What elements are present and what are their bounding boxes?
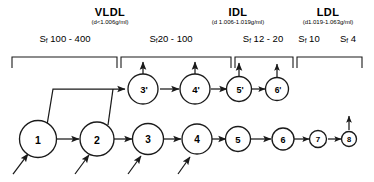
node-3[interactable]: 3 (133, 124, 164, 155)
node-4[interactable]: 4 (182, 124, 212, 154)
node-1-label: 1 (35, 134, 41, 146)
node-2-label: 2 (94, 134, 100, 146)
node-7-label: 7 (316, 135, 321, 144)
node-5-prime[interactable]: 5' (227, 77, 252, 102)
node-8[interactable]: 8 (342, 132, 357, 147)
diagram-canvas: VLDL (d<1.006g/ml) IDL (d 1.006-1.019g/m… (0, 0, 374, 182)
bracket-sf-10-4 (297, 57, 362, 68)
node-6[interactable]: 6 (272, 128, 294, 150)
node-3-prime-label: 3' (140, 84, 148, 95)
node-5-label: 5 (235, 134, 241, 145)
node-6-prime-label: 6' (275, 85, 282, 95)
node-4-prime-label: 4' (192, 84, 200, 95)
input-arrow-node-4 (178, 157, 190, 174)
node-7[interactable]: 7 (310, 131, 327, 148)
node-3-prime[interactable]: 3' (128, 74, 158, 104)
input-arrow-node-2 (75, 155, 89, 174)
node-2[interactable]: 2 (80, 122, 114, 156)
bracket-sf-20-100 (121, 57, 231, 68)
node-6-prime[interactable]: 6' (266, 78, 289, 101)
bracket-sf-12-20 (235, 57, 293, 68)
input-arrow-node-1 (13, 154, 28, 174)
node-4-prime[interactable]: 4' (180, 74, 210, 104)
node-3-label: 3 (145, 134, 151, 145)
node-6-label: 6 (280, 135, 285, 145)
node-1[interactable]: 1 (20, 121, 57, 158)
input-arrow-node-3 (128, 156, 141, 174)
node-5[interactable]: 5 (226, 127, 251, 152)
node-8-label: 8 (347, 135, 351, 144)
node-5-prime-label: 5' (236, 85, 243, 95)
branch-line-to-node-3prime (47, 89, 125, 125)
node-4-label: 4 (194, 134, 200, 145)
bracket-sf-100-400 (12, 57, 117, 68)
diagram-vector-layer: 1 2 3 4 5 6 7 8 (0, 0, 374, 182)
